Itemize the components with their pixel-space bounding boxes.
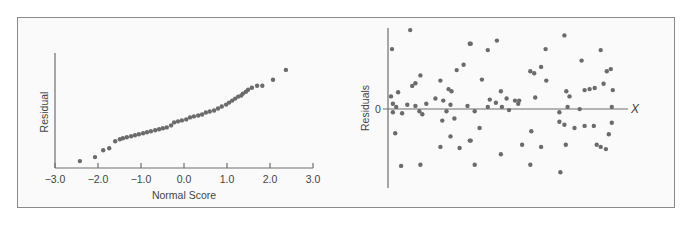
data-point (441, 98, 445, 102)
data-point (452, 116, 456, 120)
data-point (250, 86, 254, 90)
data-point (611, 88, 615, 92)
data-point (149, 129, 153, 133)
data-point (457, 146, 461, 150)
data-point (604, 147, 608, 151)
data-point (208, 109, 212, 113)
data-point (488, 97, 492, 101)
data-point (558, 170, 562, 174)
data-point (438, 145, 442, 149)
data-point (394, 105, 398, 109)
data-point (418, 73, 422, 77)
data-point (196, 113, 200, 117)
data-point (137, 132, 141, 136)
left-y-axis-label: Residual (38, 92, 50, 133)
data-point (595, 143, 599, 147)
data-point (495, 38, 499, 42)
data-point (448, 134, 452, 138)
data-point (141, 131, 145, 135)
data-point (528, 69, 532, 73)
data-point (121, 136, 125, 140)
data-point (564, 89, 568, 93)
data-point (113, 139, 117, 143)
x-tick-label: 1.0 (220, 173, 235, 185)
data-point (528, 163, 532, 167)
data-point (161, 126, 165, 130)
data-point (78, 159, 82, 163)
data-point (610, 121, 614, 125)
data-point (610, 105, 614, 109)
data-point (400, 111, 404, 115)
data-point (564, 143, 568, 147)
data-point (499, 89, 503, 93)
data-point (504, 96, 508, 100)
x-tick-label: −1.0 (131, 173, 152, 185)
data-point (413, 81, 417, 85)
data-point (405, 103, 409, 107)
data-point (246, 88, 250, 92)
data-point (582, 124, 586, 128)
data-point (413, 104, 417, 108)
data-point (469, 138, 473, 142)
data-point (172, 120, 176, 124)
data-point (396, 90, 400, 94)
right-zero-label: 0 (375, 103, 381, 115)
data-point (284, 68, 288, 72)
data-point (609, 67, 613, 71)
data-point (448, 103, 452, 107)
data-point (180, 118, 184, 122)
data-point (605, 69, 609, 73)
data-point (165, 125, 169, 129)
data-point (500, 105, 504, 109)
data-point (544, 78, 548, 82)
data-point (389, 94, 393, 98)
data-point (520, 143, 524, 147)
data-point (129, 134, 133, 138)
data-point (601, 82, 605, 86)
data-point (391, 110, 395, 114)
data-point (582, 88, 586, 92)
data-point (486, 48, 490, 52)
data-point (107, 146, 111, 150)
left-data-points (78, 68, 288, 164)
data-point (499, 152, 503, 156)
data-point (607, 132, 611, 136)
data-point (433, 96, 437, 100)
x-tick-label: 3.0 (306, 173, 321, 185)
data-point (477, 126, 481, 130)
right-data-points (389, 28, 615, 175)
data-point (192, 114, 196, 118)
data-point (93, 155, 97, 159)
data-point (449, 89, 453, 93)
data-point (469, 42, 473, 46)
data-point (220, 104, 224, 108)
data-point (593, 86, 597, 90)
data-point (543, 47, 547, 51)
data-point (533, 95, 537, 99)
data-point (507, 108, 511, 112)
data-point (184, 117, 188, 121)
left-x-axis-label: Normal Score (152, 189, 216, 201)
data-point (599, 48, 603, 52)
data-point (255, 84, 259, 88)
data-point (557, 120, 561, 124)
data-point (125, 135, 129, 139)
data-point (562, 123, 566, 127)
data-point (539, 65, 543, 69)
data-point (399, 164, 403, 168)
data-point (418, 163, 422, 167)
data-point (408, 28, 412, 32)
data-point (444, 109, 448, 113)
figure-canvas: −3.0−2.0−1.00.01.02.03.0 Normal Score Re… (0, 0, 691, 227)
data-point (455, 68, 459, 72)
data-point (145, 130, 149, 134)
data-point (578, 107, 582, 111)
data-point (572, 126, 576, 130)
data-point (587, 87, 591, 91)
data-point (494, 101, 498, 105)
data-point (579, 58, 583, 62)
data-point (599, 145, 603, 149)
normal-probability-plot: −3.0−2.0−1.00.01.02.03.0 Normal Score Re… (38, 53, 320, 201)
x-tick-label: −2.0 (88, 173, 109, 185)
right-y-axis-label: Residuals (359, 85, 371, 131)
